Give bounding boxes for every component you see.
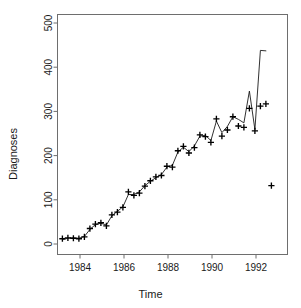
plot-border-box xyxy=(58,15,288,255)
data-point-marker xyxy=(136,190,142,196)
svg-text:1986: 1986 xyxy=(113,262,136,273)
data-point-marker xyxy=(103,223,109,229)
data-point-marker xyxy=(252,128,258,134)
svg-text:0: 0 xyxy=(43,241,54,247)
svg-text:400: 400 xyxy=(43,58,54,75)
svg-text:300: 300 xyxy=(43,103,54,120)
tick-mark-group xyxy=(54,23,257,259)
data-point-marker xyxy=(263,101,269,107)
data-point-marker xyxy=(98,220,104,226)
data-point-marker xyxy=(186,150,192,156)
data-point-marker xyxy=(257,103,263,109)
x-tick-label-group: 19841986198819901992 xyxy=(69,262,268,273)
data-point-marker xyxy=(125,189,131,195)
data-point-marker xyxy=(268,183,274,189)
y-axis-title: Diagnoses xyxy=(4,0,22,308)
y-tick-label-group: 0100200300400500 xyxy=(43,14,54,247)
data-point-marker xyxy=(175,148,181,154)
svg-text:1992: 1992 xyxy=(245,262,268,273)
data-point-marker xyxy=(219,133,225,139)
x-axis-title: Time xyxy=(0,288,301,300)
chart-canvas: 0100200300400500 19841986198819901992 xyxy=(0,0,301,308)
svg-text:200: 200 xyxy=(43,147,54,164)
svg-text:1988: 1988 xyxy=(157,262,180,273)
data-point-marker xyxy=(59,236,65,242)
data-point-marker xyxy=(224,127,230,133)
data-point-marker xyxy=(109,212,115,218)
data-point-marker xyxy=(76,236,82,242)
data-point-marker xyxy=(208,139,214,145)
data-point-marker xyxy=(120,204,126,210)
figure-aids-diagnoses-plot: 0100200300400500 19841986198819901992 Di… xyxy=(0,0,301,308)
x-axis-title-text: Time xyxy=(138,288,162,300)
data-point-marker xyxy=(191,145,197,151)
svg-text:1984: 1984 xyxy=(69,262,92,273)
svg-text:500: 500 xyxy=(43,14,54,31)
fitted-line-series xyxy=(62,50,266,239)
data-point-marker xyxy=(169,164,175,170)
data-point-marker xyxy=(241,124,247,130)
data-point-marker xyxy=(70,235,76,241)
data-point-marker xyxy=(213,116,219,122)
data-point-marker xyxy=(87,225,93,231)
data-point-marker xyxy=(164,163,170,169)
data-point-marker xyxy=(197,132,203,138)
data-point-marker xyxy=(65,235,71,241)
svg-text:1990: 1990 xyxy=(201,262,224,273)
data-point-marker xyxy=(202,133,208,139)
y-axis-title-text: Diagnoses xyxy=(7,128,19,180)
data-point-marker xyxy=(230,114,236,120)
data-point-marker xyxy=(158,172,164,178)
data-point-marker xyxy=(81,234,87,240)
svg-text:100: 100 xyxy=(43,191,54,208)
data-point-marker xyxy=(235,123,241,129)
